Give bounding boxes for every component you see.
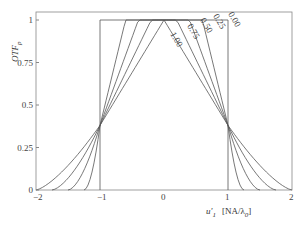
y-tick-label: 1 [29,15,34,25]
curves [36,20,292,190]
x-axis-label: u'1[NA/λ0] [206,206,251,219]
curve-label: 1.00 [168,30,185,49]
curve-label: 0.75 [185,22,202,41]
x-tick-label: −2 [33,192,43,202]
x-tick-label: 1 [225,192,230,202]
y-tick-label: 0.5 [22,100,34,110]
plot-area: −2−101200.250.50.751 0.000.250.500.751.0… [17,10,293,202]
otf-chart: −2−101200.250.50.751 0.000.250.500.751.0… [0,0,306,228]
curve-0.25 [84,20,244,190]
curve-1.00 [36,20,292,190]
x-tick-label: 0 [161,192,166,202]
curve-label: 0.00 [226,10,243,29]
curve-0.75 [52,20,276,190]
curve-0.50 [68,20,260,190]
y-tick-label: 0.25 [17,143,33,153]
axis-ticks: −2−101200.250.50.751 [17,15,293,202]
y-tick-label: 0 [29,185,34,195]
x-tick-label: 2 [289,192,294,202]
x-tick-label: −1 [97,192,107,202]
curve-labels: 0.000.250.500.751.00 [168,10,243,49]
plot-frame [36,12,292,190]
